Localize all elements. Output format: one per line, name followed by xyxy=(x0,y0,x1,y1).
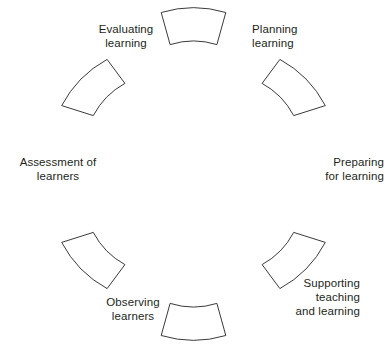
stage-label-planning-learning: Planning learning xyxy=(252,22,348,50)
stage-label-preparing-for-learning: Preparing for learning xyxy=(276,155,384,183)
cycle-diagram: Evaluating learning Planning learning Pr… xyxy=(0,0,387,345)
stage-label-assessment-of-learners: Assessment of learners xyxy=(6,155,110,183)
stage-label-evaluating-learning: Evaluating learning xyxy=(78,22,174,50)
arc-segment-lower-left xyxy=(62,232,125,288)
arc-segment-upper-right xyxy=(262,59,325,115)
arc-segment-upper-left xyxy=(62,59,125,115)
stage-label-supporting-teaching-and-learning: Supporting teaching and learning xyxy=(248,276,360,318)
stage-label-observing-learners: Observing learners xyxy=(88,295,178,323)
